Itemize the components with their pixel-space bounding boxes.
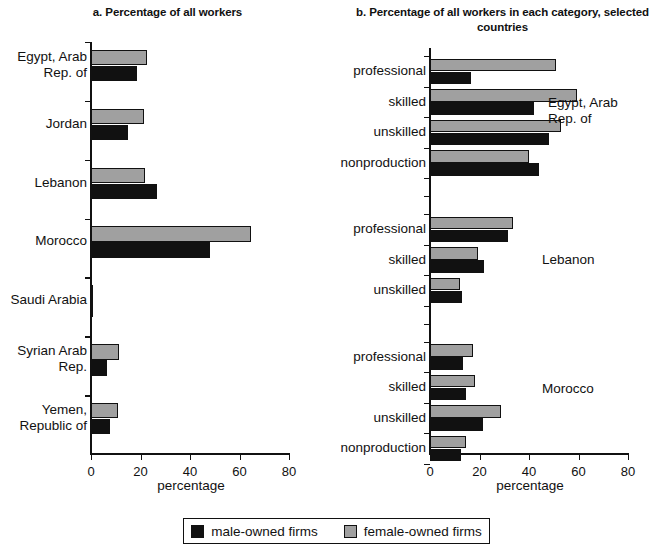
bar-female-morocco-professional [430,344,473,357]
bar-male-3 [91,184,157,200]
category-label-5: Saudi Arabia [0,292,87,308]
x-tick-label: 0 [410,464,450,479]
x-tick-label: 40 [170,464,210,479]
legend-label-male: male-owned firms [211,524,318,539]
category-label-2: Jordan [0,116,87,132]
country-label-egyptarabrepof: Egypt, Arab Rep. of [548,95,618,127]
bar-male-6 [91,360,107,376]
y-tick [424,148,430,149]
bar-female-egyptarabrepof-nonproduction [430,150,529,163]
bar-female-3 [91,168,145,184]
category-label-skilled: skilled [334,379,426,395]
y-tick [85,219,91,220]
y-tick [424,324,430,325]
x-tick [190,454,191,460]
y-tick [424,117,430,118]
category-label-7: Yemen, Republic of [0,402,87,433]
bar-male-lebanon-professional [430,230,508,243]
legend-swatch-female-icon [344,525,357,538]
x-tick-label: 20 [460,464,500,479]
category-label-4: Morocco [0,233,87,249]
category-label-unskilled: unskilled [334,124,426,140]
bar-female-4 [91,226,251,242]
legend-item-female: female-owned firms [344,524,482,539]
x-tick [480,454,481,460]
x-tick-label: 20 [121,464,161,479]
bar-male-7 [91,419,110,435]
category-label-skilled: skilled [334,94,426,110]
y-tick [85,336,91,337]
bar-male-4 [91,242,210,258]
bar-male-2 [91,125,128,141]
x-tick [141,454,142,460]
x-tick-label: 60 [559,464,599,479]
y-tick [85,395,91,396]
bar-male-morocco-skilled [430,388,466,401]
bar-female-2 [91,109,144,125]
legend-swatch-male-icon [191,525,204,538]
bar-female-lebanon-skilled [430,247,478,260]
legend-item-male: male-owned firms [191,524,318,539]
panel-b: b. Percentage of all workers in each cat… [335,0,670,500]
y-tick [424,214,430,215]
y-tick [424,306,430,307]
category-label-nonproduction: nonproduction [334,440,426,456]
panel-b-axis-title: percentage [430,478,630,493]
y-tick [424,464,430,465]
x-tick-label: 40 [509,464,549,479]
x-tick-label: 80 [269,464,309,479]
x-tick [628,454,629,460]
bar-female-egyptarabrepof-professional [430,59,556,72]
bar-female-morocco-unskilled [430,405,501,418]
bar-male-egyptarabrepof-skilled [430,102,534,115]
panel-b-title: b. Percentage of all workers in each cat… [335,5,670,35]
bar-male-egyptarabrepof-unskilled [430,133,549,146]
bar-male-egyptarabrepof-professional [430,72,471,85]
y-tick [85,42,91,43]
bar-female-lebanon-professional [430,217,513,230]
bar-female-1 [91,50,147,66]
category-label-3: Lebanon [0,175,87,191]
category-label-unskilled: unskilled [334,282,426,298]
category-label-skilled: skilled [334,252,426,268]
x-tick [289,454,290,460]
y-tick [424,433,430,434]
bar-male-5 [91,301,93,317]
bar-male-lebanon-skilled [430,260,484,273]
bar-female-morocco-nonproduction [430,436,466,449]
x-tick [91,454,92,460]
category-label-unskilled: unskilled [334,410,426,426]
y-tick [85,277,91,278]
x-tick [529,454,530,460]
category-label-professional: professional [334,349,426,365]
y-tick [424,178,430,179]
bar-male-morocco-unskilled [430,418,483,431]
bar-male-lebanon-unskilled [430,291,462,304]
bar-female-6 [91,344,119,360]
category-label-nonproduction: nonproduction [334,155,426,171]
category-label-1: Egypt, Arab Rep. of [0,49,87,80]
figure: a. Percentage of all workers 020406080Eg… [0,0,670,550]
panel-a-title: a. Percentage of all workers [0,5,335,20]
category-label-professional: professional [334,221,426,237]
y-tick [424,87,430,88]
x-tick-label: 80 [608,464,648,479]
bar-male-egyptarabrepof-nonproduction [430,163,539,176]
bar-female-morocco-skilled [430,375,475,388]
x-tick [579,454,580,460]
y-tick [424,245,430,246]
bar-male-morocco-professional [430,357,463,370]
panel-a: a. Percentage of all workers 020406080Eg… [0,0,335,500]
y-tick [424,403,430,404]
category-label-6: Syrian Arab Rep. [0,343,87,374]
x-tick [240,454,241,460]
category-label-professional: professional [334,63,426,79]
y-tick [424,372,430,373]
legend: male-owned firms female-owned firms [183,518,490,544]
country-label-lebanon: Lebanon [542,252,595,268]
bar-female-egyptarabrepof-unskilled [430,120,561,133]
x-tick-label: 60 [220,464,260,479]
bar-female-lebanon-unskilled [430,278,460,291]
bar-female-5 [91,285,93,301]
y-tick [424,196,430,197]
